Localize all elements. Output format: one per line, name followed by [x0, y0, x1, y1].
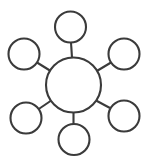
spoke-line-top-right: [96, 63, 111, 72]
node-circle-bottom-left[interactable]: [11, 103, 42, 134]
node-circle-bottom-right[interactable]: [109, 101, 140, 132]
spoke-line-bottom-left: [38, 100, 52, 110]
hub-circle-center[interactable]: [46, 58, 101, 113]
hub-spoke-diagram: [0, 0, 147, 165]
spoke-line-top: [71, 43, 72, 58]
node-circle-top-left[interactable]: [9, 39, 40, 70]
node-circle-top[interactable]: [55, 12, 86, 43]
diagram-svg-canvas: [0, 0, 147, 165]
spoke-line-bottom-right: [96, 101, 110, 109]
node-circle-top-right[interactable]: [109, 39, 140, 70]
node-circle-bottom[interactable]: [59, 124, 90, 155]
hub-node-group: [46, 58, 101, 113]
